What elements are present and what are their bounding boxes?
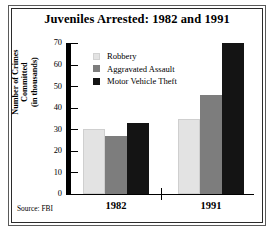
bar-1982-aggravated-assault (105, 136, 127, 194)
y-tick-mark (71, 43, 78, 44)
legend-item-motor-vehicle-theft: Motor Vehicle Theft (93, 75, 213, 88)
y-tick-mark (71, 65, 78, 66)
y-axis-title-line-3: (in thousands) (30, 17, 39, 147)
y-tick-mark (71, 151, 78, 152)
y-tick-mark (71, 172, 78, 173)
x-axis-line (66, 194, 254, 195)
y-tick-label: 40 (42, 103, 62, 112)
bar-1982-motor-vehicle-theft (127, 123, 149, 194)
legend-label: Aggravated Assault (107, 64, 175, 74)
y-tick-label: 0 (42, 189, 62, 198)
source-note: Source: FBI (17, 204, 53, 213)
y-axis-title: Number of Crimes Committed (in thousands… (11, 17, 39, 147)
x-axis-label-1991: 1991 (170, 200, 252, 211)
y-axis-title-line-1: Number of Crimes (11, 17, 20, 147)
y-tick-mark (71, 129, 78, 130)
y-tick-mark (71, 86, 78, 87)
bar-1991-robbery (178, 119, 200, 195)
chart-figure: Juveniles Arrested: 1982 and 1991 Number… (0, 0, 274, 234)
y-tick-mark (71, 108, 78, 109)
y-tick-label: 70 (42, 38, 62, 47)
y-tick-label: 10 (42, 168, 62, 177)
y-axis-title-line-2: Committed (20, 17, 29, 147)
y-tick-label: 20 (42, 146, 62, 155)
x-axis-label-1982: 1982 (75, 200, 157, 211)
legend-item-aggravated-assault: Aggravated Assault (93, 63, 213, 76)
legend-swatch-icon (93, 65, 100, 72)
y-tick-label: 30 (42, 125, 62, 134)
y-tick-mark (71, 194, 78, 195)
bar-1982-robbery (83, 129, 105, 194)
bar-1991-aggravated-assault (200, 95, 222, 194)
legend-label: Robbery (107, 51, 137, 61)
bar-1991-motor-vehicle-theft (222, 43, 244, 194)
chart-legend: RobberyAggravated AssaultMotor Vehicle T… (93, 50, 213, 88)
legend-swatch-icon (93, 78, 100, 85)
legend-label: Motor Vehicle Theft (107, 76, 177, 86)
legend-swatch-icon (93, 53, 100, 60)
y-tick-label: 60 (42, 60, 62, 69)
x-axis-group-separator-tick (161, 188, 162, 200)
chart-title: Juveniles Arrested: 1982 and 1991 (11, 12, 263, 27)
y-tick-label: 50 (42, 82, 62, 91)
legend-item-robbery: Robbery (93, 50, 213, 63)
